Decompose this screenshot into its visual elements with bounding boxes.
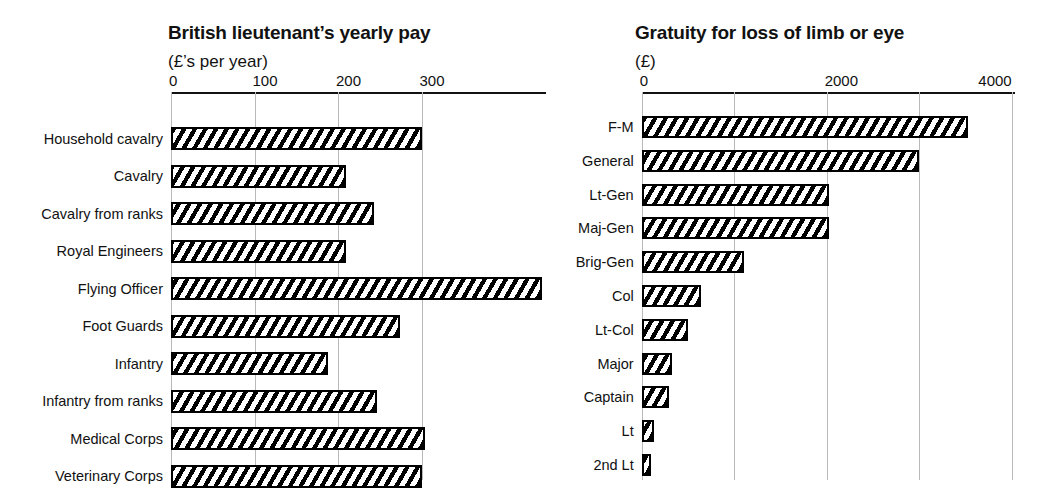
plot-area-pay (171, 92, 506, 482)
bar (642, 251, 745, 273)
category-label: Captain (584, 390, 634, 405)
bar (171, 390, 377, 413)
figure: British lieutenant’s yearly pay (£’s per… (0, 0, 1052, 493)
x-tick-label-300: 300 (420, 72, 445, 89)
category-label: Lt (622, 424, 634, 439)
chart-panel-pay: British lieutenant’s yearly pay (£’s per… (0, 0, 560, 493)
category-label: Veterinary Corps (55, 469, 163, 484)
gridline-3000 (919, 92, 920, 480)
page-title: British lieutenant’s yearly pay (168, 22, 430, 44)
category-label: Infantry (115, 357, 163, 372)
category-label: Royal Engineers (57, 244, 163, 259)
x-tick-label-100: 100 (253, 72, 278, 89)
bar (642, 353, 673, 375)
chart-subtitle-2: (£) (635, 52, 656, 72)
category-label: Household cavalry (44, 132, 163, 147)
category-label: Major (597, 357, 633, 372)
category-label: Foot Guards (82, 319, 163, 334)
category-label: Cavalry from ranks (41, 207, 163, 222)
category-label: Infantry from ranks (42, 394, 163, 409)
bar (171, 240, 346, 263)
x-axis-line-2 (642, 92, 1015, 94)
bar (171, 277, 542, 300)
category-label: Cavalry (114, 169, 163, 184)
category-label: Lt-Col (595, 323, 634, 338)
chart-subtitle: (£’s per year) (168, 52, 268, 72)
category-label: Col (612, 289, 634, 304)
x-tick-label-200: 200 (336, 72, 361, 89)
bar (642, 217, 830, 239)
gridline-4000 (1012, 92, 1013, 480)
category-label: Medical Corps (70, 432, 163, 447)
x-tick-label-0: 0 (169, 72, 177, 89)
bar (642, 285, 701, 307)
category-label: General (582, 154, 634, 169)
x-tick-label-0: 0 (640, 72, 648, 89)
bar (642, 386, 669, 408)
chart-panel-gratuity: Gratuity for loss of limb or eye (£) 020… (560, 0, 1052, 493)
bar (171, 315, 400, 338)
bar (642, 116, 969, 138)
bar (171, 465, 422, 488)
category-label: Brig-Gen (576, 255, 634, 270)
x-axis-line (171, 92, 546, 94)
bar (642, 454, 651, 476)
category-label: Lt-Gen (589, 188, 633, 203)
bar (171, 352, 328, 375)
category-label: Flying Officer (78, 282, 163, 297)
category-label: Maj-Gen (578, 221, 634, 236)
category-label: 2nd Lt (593, 458, 633, 473)
bar (642, 319, 689, 341)
bar (171, 427, 425, 450)
bar (171, 127, 422, 150)
bar (642, 184, 830, 206)
plot-area-gratuity (642, 92, 1012, 482)
bar (171, 202, 374, 225)
x-tick-label-4000: 4000 (978, 72, 1011, 89)
page-title-2: Gratuity for loss of limb or eye (635, 22, 904, 44)
bar (642, 150, 920, 172)
category-label: F-M (608, 120, 634, 135)
bar (171, 165, 346, 188)
x-tick-label-2000: 2000 (825, 72, 858, 89)
bar (642, 420, 654, 442)
